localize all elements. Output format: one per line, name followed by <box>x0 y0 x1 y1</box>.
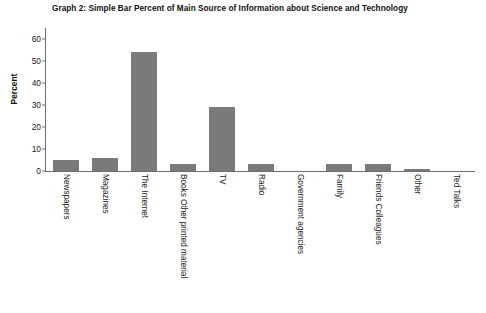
x-label-slot: Friends Colleagues <box>358 174 397 309</box>
x-label-slot: Magazines <box>85 174 124 309</box>
y-tick-mark <box>42 105 45 106</box>
x-axis-line <box>45 171 475 172</box>
bar <box>404 169 430 171</box>
y-axis-label: Percent <box>9 59 19 119</box>
y-tick-label: 60 <box>32 34 41 44</box>
x-label-slot: TV <box>202 174 241 309</box>
x-label-slot: Radio <box>241 174 280 309</box>
x-label-slot: The Internet <box>124 174 163 309</box>
y-tick-label: 20 <box>32 122 41 132</box>
bar <box>131 52 157 171</box>
x-label-slot: Government agencies <box>280 174 319 309</box>
y-tick-label: 40 <box>32 78 41 88</box>
y-tick-label: 50 <box>32 56 41 66</box>
bar <box>326 164 352 171</box>
x-label-slot: Family <box>319 174 358 309</box>
x-label-slot: Books Other printed material <box>163 174 202 309</box>
x-tick-label: Government agencies <box>295 174 303 254</box>
bar-slot <box>241 28 280 171</box>
bar <box>92 158 118 171</box>
y-tick-mark <box>42 149 45 150</box>
bar-slot <box>358 28 397 171</box>
y-tick-mark <box>42 83 45 84</box>
bar <box>53 160 79 171</box>
bar-slot <box>85 28 124 171</box>
y-tick-label: 0 <box>36 166 41 176</box>
x-tick-label: Family <box>334 174 342 198</box>
bar-series <box>46 28 475 171</box>
bar-slot <box>46 28 85 171</box>
bar-slot <box>124 28 163 171</box>
y-tick-label: 10 <box>32 144 41 154</box>
x-tick-label: Radio <box>256 174 264 195</box>
bar-slot <box>397 28 436 171</box>
x-tick-label: Other <box>412 174 420 194</box>
bar-chart: Graph 2: Simple Bar Percent of Main Sour… <box>0 0 486 313</box>
bar <box>209 107 235 171</box>
bar <box>365 164 391 171</box>
bar <box>248 164 274 171</box>
x-label-slot: Newspapers <box>46 174 85 309</box>
bar-slot <box>436 28 475 171</box>
x-tick-label: The Internet <box>139 174 147 218</box>
y-tick-mark <box>42 171 45 172</box>
x-tick-label: Magazines <box>100 174 108 214</box>
x-tick-label: Books Other printed material <box>178 174 186 278</box>
y-tick-mark <box>42 39 45 40</box>
bar-slot <box>280 28 319 171</box>
x-tick-label: Ted Talks <box>451 174 459 208</box>
y-tick-label: 30 <box>32 100 41 110</box>
plot-area: 0102030405060 <box>45 28 475 172</box>
y-tick-mark <box>42 61 45 62</box>
bar <box>170 164 196 171</box>
x-label-slot: Other <box>397 174 436 309</box>
bar-slot <box>319 28 358 171</box>
chart-title: Graph 2: Simple Bar Percent of Main Sour… <box>52 4 408 13</box>
x-axis-category-labels: NewspapersMagazinesThe InternetBooks Oth… <box>46 174 475 309</box>
bar-slot <box>163 28 202 171</box>
x-label-slot: Ted Talks <box>436 174 475 309</box>
x-tick-label: Friends Colleagues <box>373 174 381 245</box>
y-tick-mark <box>42 127 45 128</box>
bar-slot <box>202 28 241 171</box>
x-tick-label: Newspapers <box>61 174 69 220</box>
x-tick-label: TV <box>217 174 225 184</box>
